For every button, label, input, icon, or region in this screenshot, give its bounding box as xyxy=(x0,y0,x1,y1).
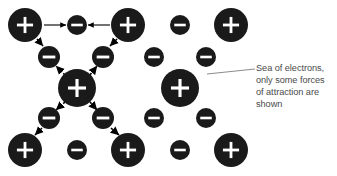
delocalised-electron xyxy=(92,46,114,68)
metallic-bonding-diagram: Sea of electrons, only some forces of at… xyxy=(0,0,337,176)
minus-icon xyxy=(148,117,160,120)
delocalised-electron xyxy=(170,15,190,35)
metal-cation xyxy=(58,69,96,107)
delocalised-electron xyxy=(38,46,60,68)
minus-icon xyxy=(71,24,83,27)
metal-cation xyxy=(161,69,199,107)
annotation-leader-line xyxy=(207,69,255,74)
delocalised-electron xyxy=(67,15,87,35)
force-arrow xyxy=(35,128,42,135)
minus-icon xyxy=(71,149,83,152)
metal-cation xyxy=(214,8,248,42)
plus-icon xyxy=(127,17,130,33)
plus-icon xyxy=(24,17,27,33)
minus-icon xyxy=(174,24,186,27)
metal-cation xyxy=(8,8,42,42)
force-arrow xyxy=(56,66,65,75)
plus-icon xyxy=(24,142,27,158)
plus-icon xyxy=(230,142,233,158)
plus-icon xyxy=(127,142,130,158)
delocalised-electron xyxy=(196,108,216,128)
delocalised-electron xyxy=(144,47,164,67)
annotation-caption: Sea of electrons, only some forces of at… xyxy=(256,62,337,110)
force-arrow xyxy=(110,39,117,46)
minus-icon xyxy=(97,56,110,59)
minus-icon xyxy=(43,56,56,59)
metal-cation xyxy=(214,133,248,167)
force-arrow xyxy=(90,66,97,75)
metal-cation xyxy=(8,133,42,167)
metal-cation xyxy=(111,133,145,167)
delocalised-electron xyxy=(38,107,60,129)
plus-icon xyxy=(178,79,181,97)
minus-icon xyxy=(148,56,160,59)
minus-icon xyxy=(174,149,186,152)
particle-layer xyxy=(8,8,248,167)
minus-icon xyxy=(200,117,212,120)
delocalised-electron xyxy=(92,107,114,129)
force-arrow xyxy=(56,102,65,110)
delocalised-electron xyxy=(67,140,87,160)
force-arrow xyxy=(90,102,97,110)
plus-icon xyxy=(230,17,233,33)
leader-line-layer xyxy=(207,69,255,74)
delocalised-electron xyxy=(144,108,164,128)
delocalised-electron xyxy=(196,47,216,67)
minus-icon xyxy=(97,117,110,120)
delocalised-electron xyxy=(170,140,190,160)
minus-icon xyxy=(200,56,212,59)
force-arrow xyxy=(111,128,119,135)
plus-icon xyxy=(75,79,78,97)
minus-icon xyxy=(43,117,56,120)
force-arrow xyxy=(37,39,43,46)
metal-cation xyxy=(111,8,145,42)
